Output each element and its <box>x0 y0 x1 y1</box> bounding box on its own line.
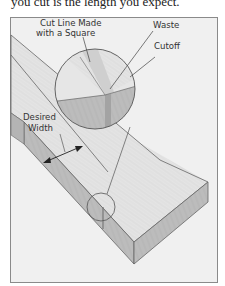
illustration-frame: Cut Line Made with a Square Waste Cutoff… <box>10 17 218 283</box>
label-width: Width <box>28 123 53 133</box>
label-cut-line: Cut Line Made <box>40 18 102 28</box>
board-cut-diagram: Cut Line Made with a Square Waste Cutoff… <box>10 17 218 283</box>
label-cut-line-2: with a Square <box>36 28 95 38</box>
caption-fragment: you cut is the length you expect. <box>11 0 180 10</box>
label-desired: Desired <box>23 112 56 122</box>
label-cutoff: Cutoff <box>154 41 181 51</box>
label-waste: Waste <box>153 20 179 30</box>
